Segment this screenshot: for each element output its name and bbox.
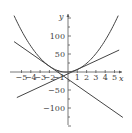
axes	[10, 14, 122, 126]
y-tick-label: −100	[43, 104, 65, 113]
x-axis-label: x	[119, 74, 124, 83]
chart: −5−4−3−2−11234510050−50−100 x y	[0, 0, 132, 133]
x-tick-label: 2	[84, 73, 89, 82]
x-tick-label: −1	[53, 73, 65, 82]
x-tick-label: 5	[112, 73, 117, 82]
curves	[14, 16, 123, 118]
parabola-curve	[14, 16, 118, 72]
y-tick-label: 100	[50, 32, 65, 41]
y-tick-label: 50	[55, 50, 65, 59]
x-tick-label: 3	[93, 73, 98, 82]
x-tick-label: 4	[103, 73, 108, 82]
y-axis-label: y	[58, 12, 64, 21]
y-tick-label: −50	[48, 86, 65, 95]
x-tick-label: 1	[75, 73, 80, 82]
y-axis-arrow-icon	[67, 14, 70, 17]
